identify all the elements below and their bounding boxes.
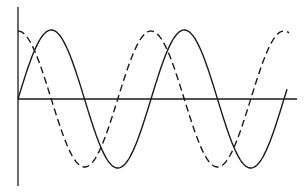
sine-cosine-diagram — [0, 0, 307, 196]
